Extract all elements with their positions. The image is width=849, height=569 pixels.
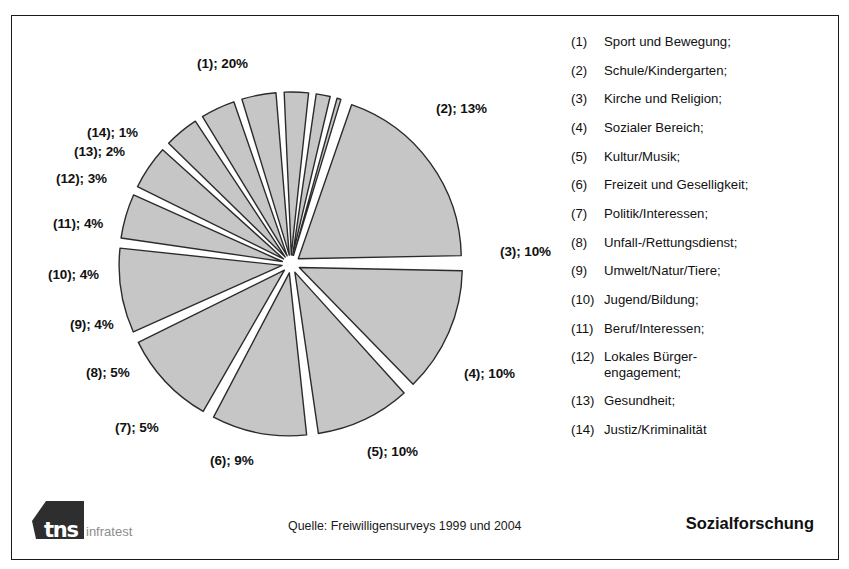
legend-item-label: Politik/Interessen;	[604, 206, 833, 221]
legend-item-number: (4)	[571, 120, 604, 135]
legend-item-label-line1: Unfall-/Rettungsdienst;	[604, 235, 737, 250]
pie-slice-label-3: (3); 10%	[500, 244, 551, 259]
tns-wordmark: tns	[44, 518, 78, 542]
legend-item-label-line1: Politik/Interessen;	[604, 206, 708, 221]
legend-item-2: (2)Schule/Kindergarten;	[571, 63, 833, 78]
pie-slice-label-1: (1); 20%	[197, 56, 248, 71]
legend-item-9: (9)Umwelt/Natur/Tiere;	[571, 263, 833, 278]
legend-item-label-line1: Kirche und Religion;	[604, 91, 722, 106]
footer: tns infratest Quelle: Freiwilligensurvey…	[12, 497, 838, 559]
legend-item-label-line1: Schule/Kindergarten;	[604, 63, 727, 78]
chart-frame: (1); 20%(2); 13%(3); 10%(4); 10%(5); 10%…	[11, 15, 839, 560]
pie-slice-label-9: (9); 4%	[70, 317, 114, 332]
legend-item-8: (8)Unfall-/Rettungsdienst;	[571, 235, 833, 250]
legend-item-label: Kultur/Musik;	[604, 149, 833, 164]
legend-item-14: (14)Justiz/Kriminalität	[571, 422, 833, 437]
brand-word: Sozialforschung	[686, 514, 814, 533]
legend-item-label: Schule/Kindergarten;	[604, 63, 833, 78]
legend-item-number: (9)	[571, 263, 604, 278]
infratest-wordmark: infratest	[86, 524, 132, 539]
pie-slice-label-6: (6); 9%	[210, 453, 254, 468]
legend-item-label: Sport und Bewegung;	[604, 34, 833, 49]
pie-slice-label-4: (4); 10%	[464, 366, 515, 381]
legend-item-number: (1)	[571, 34, 604, 49]
legend-item-7: (7)Politik/Interessen;	[571, 206, 833, 221]
legend-item-number: (5)	[571, 149, 604, 164]
legend-item-number: (13)	[571, 393, 604, 408]
pie-slice-label-14: (14); 1%	[87, 125, 138, 140]
legend-item-5: (5)Kultur/Musik;	[571, 149, 833, 164]
legend-item-11: (11)Beruf/Interessen;	[571, 321, 833, 336]
legend-item-label: Gesundheit;	[604, 393, 833, 408]
legend-item-number: (14)	[571, 422, 604, 437]
legend-item-12: (12)Lokales Bürger-engagement;	[571, 349, 833, 379]
legend-item-label-line1: Gesundheit;	[604, 393, 675, 408]
legend-item-label: Kirche und Religion;	[604, 91, 833, 106]
legend-item-label-line1: Lokales Bürger-	[604, 349, 697, 364]
legend-item-label: Justiz/Kriminalität	[604, 422, 833, 437]
legend-item-6: (6)Freizeit und Geselligkeit;	[571, 177, 833, 192]
legend-item-number: (3)	[571, 91, 604, 106]
legend-item-label-line1: Sport und Bewegung;	[604, 34, 731, 49]
legend-item-10: (10)Jugend/Bildung;	[571, 292, 833, 307]
legend-item-number: (6)	[571, 177, 604, 192]
pie-slice-label-13: (13); 2%	[74, 144, 125, 159]
legend-item-number: (10)	[571, 292, 604, 307]
legend-item-label: Lokales Bürger-engagement;	[604, 349, 833, 379]
pie-slice-label-2: (2); 13%	[436, 101, 487, 116]
legend-item-1: (1)Sport und Bewegung;	[571, 34, 833, 49]
pie-slice-label-7: (7); 5%	[115, 420, 159, 435]
legend-item-label: Umwelt/Natur/Tiere;	[604, 263, 833, 278]
legend-item-label: Freizeit und Geselligkeit;	[604, 177, 833, 192]
source-note: Quelle: Freiwilligensurveys 1999 und 200…	[288, 519, 522, 533]
legend-item-label-line1: Beruf/Interessen;	[604, 321, 704, 336]
legend-item-label-line2: engagement;	[604, 365, 833, 380]
tns-infratest-logo: tns infratest	[30, 499, 150, 545]
pie-chart-area: (1); 20%(2); 13%(3); 10%(4); 10%(5); 10%…	[12, 16, 557, 496]
legend-item-label-line1: Kultur/Musik;	[604, 149, 680, 164]
legend-item-label: Jugend/Bildung;	[604, 292, 833, 307]
legend-item-number: (7)	[571, 206, 604, 221]
legend-item-label-line1: Sozialer Bereich;	[604, 120, 704, 135]
legend-item-label-line1: Justiz/Kriminalität	[604, 422, 707, 437]
legend-item-number: (11)	[571, 321, 604, 336]
legend-item-label-line1: Umwelt/Natur/Tiere;	[604, 263, 721, 278]
legend-item-label: Beruf/Interessen;	[604, 321, 833, 336]
legend-item-4: (4)Sozialer Bereich;	[571, 120, 833, 135]
legend-item-3: (3)Kirche und Religion;	[571, 91, 833, 106]
pie-slice-label-11: (11); 4%	[53, 216, 103, 231]
pie-slice-label-10: (10); 4%	[48, 267, 99, 282]
legend-item-label: Unfall-/Rettungsdienst;	[604, 235, 833, 250]
pie-slice-label-5: (5); 10%	[367, 444, 418, 459]
legend-item-number: (2)	[571, 63, 604, 78]
legend-item-label-line1: Jugend/Bildung;	[604, 292, 699, 307]
legend-item-label: Sozialer Bereich;	[604, 120, 833, 135]
legend: (1)Sport und Bewegung;(2)Schule/Kinderga…	[571, 34, 833, 451]
pie-slice-label-8: (8); 5%	[86, 365, 130, 380]
legend-item-13: (13)Gesundheit;	[571, 393, 833, 408]
legend-item-number: (12)	[571, 349, 604, 364]
legend-item-number: (8)	[571, 235, 604, 250]
legend-item-label-line1: Freizeit und Geselligkeit;	[604, 177, 748, 192]
pie-slice-label-12: (12); 3%	[56, 171, 107, 186]
pie-chart-svg	[12, 16, 557, 496]
